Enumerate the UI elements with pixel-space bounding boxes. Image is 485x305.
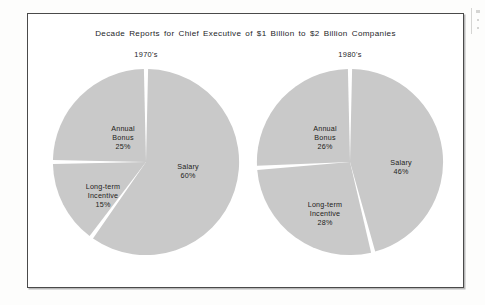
chart-title: Decade Reports for Chief Executive of $1… <box>28 29 463 38</box>
pie-label-longterm-incentive-1980s: Long-term Incentive 28% <box>286 200 364 228</box>
pie-chart-1980s: 1980's Annual Bonus 26% Long-term Incent… <box>250 50 450 278</box>
label-line-2: Bonus <box>290 133 360 142</box>
scan-artifact-mark-mid <box>477 19 479 21</box>
label-line-2: Incentive <box>66 191 140 200</box>
scan-artifact-mark-low <box>477 27 479 29</box>
pie-chart-1970s: 1970's Annual Bonus 25% Long-term Incent… <box>46 50 246 278</box>
scan-artifact-vertical <box>471 8 472 34</box>
pie-label-longterm-incentive-1970s: Long-term Incentive 15% <box>66 182 140 210</box>
label-line-1: Annual <box>88 124 158 133</box>
label-percent: 60% <box>158 171 218 180</box>
label-line-1: Salary <box>158 162 218 171</box>
pie-label-annual-bonus-1980s: Annual Bonus 26% <box>290 124 360 152</box>
pie-label-salary-1970s: Salary 60% <box>158 162 218 180</box>
label-percent: 46% <box>372 167 430 176</box>
pie-label-annual-bonus-1970s: Annual Bonus 25% <box>88 124 158 152</box>
label-percent: 28% <box>286 218 364 227</box>
label-line-1: Long-term <box>286 200 364 209</box>
chart-frame: Decade Reports for Chief Executive of $1… <box>27 13 464 288</box>
pie-label-salary-1980s: Salary 46% <box>372 158 430 176</box>
label-line-2: Bonus <box>88 133 158 142</box>
label-line-1: Annual <box>290 124 360 133</box>
label-percent: 26% <box>290 142 360 151</box>
label-line-2: Incentive <box>286 209 364 218</box>
label-line-1: Long-term <box>66 182 140 191</box>
label-percent: 25% <box>88 142 158 151</box>
label-percent: 15% <box>66 200 140 209</box>
scan-artifact-mark-top <box>476 10 480 13</box>
label-line-1: Salary <box>372 158 430 167</box>
pie-title-1970s: 1970's <box>46 50 246 59</box>
pie-title-1980s: 1980's <box>250 50 450 59</box>
